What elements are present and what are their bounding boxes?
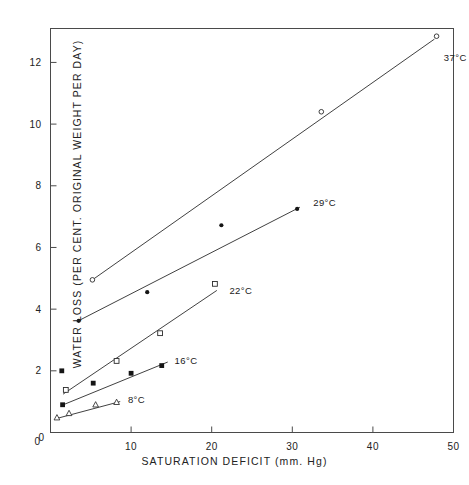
series-label-8C: 8°C [128,394,145,405]
series-label-16C: 16°C [175,355,198,366]
data-point-16C [60,402,65,407]
y-tick-label: 6 [35,242,41,253]
x-tick-label: 10 [125,441,137,452]
x-tick-label: 50 [447,441,459,452]
y-tick-label: 2 [35,365,41,376]
series-label-37C: 37°C [444,52,467,63]
figure-container: 01020304050 024681012 37°C29°C22°C16°C8°… [0,0,469,485]
data-point-22C [114,359,119,364]
x-tick-label: 30 [286,441,298,452]
data-point-29C [295,207,299,211]
x-axis-title: SATURATION DEFICIT (mm. Hg) [0,455,469,467]
data-point-16C [91,381,96,386]
data-point-29C [219,223,223,227]
data-point-22C [63,388,68,393]
data-point-37C [319,109,324,114]
y-tick-label: 4 [35,304,41,315]
data-point-16C [159,363,164,368]
x-tick-label: 40 [367,441,379,452]
y-tick-label: 12 [29,57,41,68]
data-point-29C [145,290,149,294]
series-label-22C: 22°C [229,285,252,296]
y-axis-title: WATER LOSS (PER CENT. ORIGINAL WEIGHT PE… [71,9,83,399]
y-tick-label: 0 [34,436,40,447]
y-tick-label: 10 [29,119,41,130]
series-label-29C: 29°C [313,197,336,208]
data-point-16C [129,371,134,376]
y-tick-label: 8 [35,180,41,191]
x-tick-label: 20 [206,441,218,452]
data-point-22C [158,331,163,336]
data-point-16C [59,368,64,373]
data-point-22C [213,281,218,286]
data-point-37C [90,278,95,283]
data-point-37C [434,34,439,39]
